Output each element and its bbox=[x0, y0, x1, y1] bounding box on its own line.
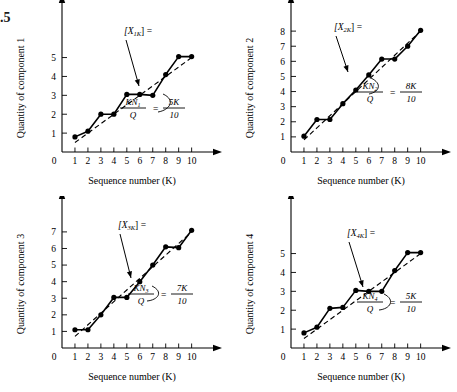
data-point-marker bbox=[418, 28, 423, 33]
formula-denominator: Q bbox=[138, 296, 145, 306]
chart-svg: 1234567891001234567[X3K] =KN3Q=7K10Seque… bbox=[0, 196, 228, 392]
series-annotation-label: [X2K] = bbox=[334, 22, 362, 33]
x-tick-label: 9 bbox=[176, 156, 181, 166]
x-tick-label: 10 bbox=[416, 156, 426, 166]
x-tick-label: 8 bbox=[163, 156, 168, 166]
x-tick-label: 8 bbox=[392, 156, 397, 166]
origin-tick-label: 0 bbox=[52, 352, 57, 362]
x-tick-label: 5 bbox=[124, 156, 129, 166]
formula-rhs-denominator: 10 bbox=[170, 110, 180, 120]
x-tick-label: 4 bbox=[340, 156, 345, 166]
y-axis-title: Quantity of component 4 bbox=[244, 234, 255, 334]
chart-panel-4: 12345678910012345[X4K] =KN4Q=5K10Sequenc… bbox=[229, 196, 457, 392]
x-tick-label: 4 bbox=[111, 352, 116, 362]
formula-annotation: KN2Q=8K10 bbox=[357, 81, 422, 104]
chart-panel-1: 12345678910012345[X1K] =KN1Q=5K10Sequenc… bbox=[0, 0, 228, 196]
data-point-marker bbox=[353, 288, 358, 293]
data-point-marker bbox=[418, 250, 423, 255]
x-tick-label: 4 bbox=[340, 352, 345, 362]
x-tick-label: 6 bbox=[366, 352, 371, 362]
x-tick-label: 7 bbox=[379, 156, 384, 166]
y-tick-label: 3 bbox=[280, 287, 285, 297]
x-tick-label: 6 bbox=[137, 156, 142, 166]
x-tick-label: 8 bbox=[392, 352, 397, 362]
x-axis-title: Sequence number (K) bbox=[317, 371, 405, 383]
data-point-marker bbox=[163, 244, 168, 249]
y-tick-label: 5 bbox=[280, 72, 285, 82]
y-tick-label: 4 bbox=[280, 268, 285, 278]
y-axis-title: Quantity of component 2 bbox=[244, 38, 255, 138]
chart-panel-3: 1234567891001234567[X3K] =KN3Q=7K10Seque… bbox=[0, 196, 228, 392]
y-tick-label: 7 bbox=[280, 42, 285, 52]
chart-svg: 12345678910012345[X4K] =KN4Q=5K10Sequenc… bbox=[229, 196, 457, 392]
y-tick-label: 5 bbox=[51, 53, 56, 63]
formula-annotation: KN3Q=7K10 bbox=[128, 283, 193, 306]
formula-rhs-denominator: 10 bbox=[178, 296, 188, 306]
origin-tick-label: 0 bbox=[281, 352, 286, 362]
chart-svg: 12345678910012345[X1K] =KN1Q=5K10Sequenc… bbox=[0, 0, 228, 196]
formula-numerator: KN4 bbox=[361, 291, 377, 302]
x-tick-label: 3 bbox=[99, 156, 104, 166]
data-point-marker bbox=[176, 245, 181, 250]
data-point-marker bbox=[392, 56, 397, 61]
data-point-marker bbox=[405, 250, 410, 255]
x-tick-label: 4 bbox=[111, 156, 116, 166]
x-tick-label: 10 bbox=[187, 352, 197, 362]
formula-rhs-numerator: 8K bbox=[406, 81, 418, 91]
data-point-marker bbox=[176, 54, 181, 59]
formula-rhs-numerator: 7K bbox=[177, 283, 189, 293]
x-tick-label: 7 bbox=[150, 156, 155, 166]
chart-svg: 12345678910012345678[X2K] =KN2Q=8K10Sequ… bbox=[229, 0, 457, 196]
formula-rhs-numerator: 5K bbox=[406, 291, 418, 301]
y-tick-label: 2 bbox=[51, 110, 56, 120]
data-point-marker bbox=[366, 72, 371, 77]
origin-tick-label: 0 bbox=[52, 156, 57, 166]
data-point-marker bbox=[163, 72, 168, 77]
x-tick-label: 5 bbox=[353, 352, 358, 362]
series-annotation-label: [X4K] = bbox=[347, 228, 375, 239]
y-tick-label: 2 bbox=[280, 117, 285, 127]
formula-numerator: KN2 bbox=[361, 81, 377, 92]
y-tick-label: 6 bbox=[280, 57, 285, 67]
data-point-marker bbox=[137, 92, 142, 97]
y-tick-label: 3 bbox=[280, 102, 285, 112]
data-point-marker bbox=[124, 295, 129, 300]
data-point-marker bbox=[327, 306, 332, 311]
data-point-marker bbox=[327, 117, 332, 122]
y-tick-label: 4 bbox=[51, 277, 56, 287]
formula-equals-sign: = bbox=[390, 88, 395, 98]
data-point-marker bbox=[72, 134, 77, 139]
y-tick-label: 8 bbox=[280, 27, 285, 37]
x-tick-label: 5 bbox=[124, 352, 129, 362]
data-point-marker bbox=[85, 327, 90, 332]
x-axis-title: Sequence number (K) bbox=[88, 175, 176, 187]
y-tick-label: 7 bbox=[51, 227, 56, 237]
y-axis-title: Quantity of component 1 bbox=[15, 38, 26, 138]
y-tick-label: 1 bbox=[51, 327, 56, 337]
x-tick-label: 8 bbox=[163, 352, 168, 362]
formula-denominator: Q bbox=[367, 94, 374, 104]
data-point-marker bbox=[189, 54, 194, 59]
x-tick-label: 9 bbox=[176, 352, 181, 362]
x-tick-label: 1 bbox=[73, 156, 78, 166]
formula-rhs-denominator: 10 bbox=[407, 304, 417, 314]
y-tick-label: 6 bbox=[51, 244, 56, 254]
series-annotation-label: [X3K] = bbox=[118, 220, 146, 231]
x-tick-label: 7 bbox=[150, 352, 155, 362]
data-point-marker bbox=[150, 93, 155, 98]
x-tick-label: 2 bbox=[315, 352, 320, 362]
x-tick-label: 3 bbox=[99, 352, 104, 362]
x-tick-label: 6 bbox=[366, 156, 371, 166]
x-tick-label: 10 bbox=[187, 156, 197, 166]
data-line bbox=[75, 230, 192, 330]
formula-annotation: KN4Q=5K10 bbox=[357, 291, 422, 314]
y-tick-label: 4 bbox=[280, 87, 285, 97]
x-tick-label: 5 bbox=[353, 156, 358, 166]
formula-annotation: KN1Q=5K10 bbox=[120, 97, 185, 120]
data-point-marker bbox=[314, 325, 319, 330]
y-tick-label: 2 bbox=[51, 310, 56, 320]
formula-equals-sign: = bbox=[153, 104, 158, 114]
origin-tick-label: 0 bbox=[281, 156, 286, 166]
x-tick-label: 6 bbox=[137, 352, 142, 362]
y-tick-label: 3 bbox=[51, 91, 56, 101]
